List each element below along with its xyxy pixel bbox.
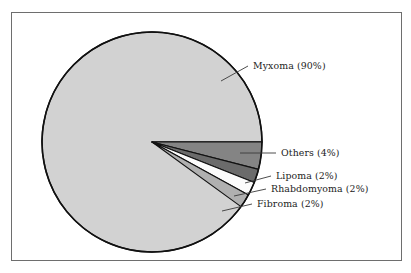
pie-label-others: Others (4%) <box>281 147 340 158</box>
pie-label-fibroma: Fibroma (2%) <box>257 198 323 209</box>
figure-canvas: Myxoma (90%) Others (4%) Lipoma (2%) Rha… <box>0 0 411 273</box>
pie-label-rhabdomyoma: Rhabdomyoma (2%) <box>271 183 368 194</box>
pie-label-myxoma: Myxoma (90%) <box>253 60 326 71</box>
pie-label-lipoma: Lipoma (2%) <box>276 170 338 181</box>
pie-chart <box>0 0 411 273</box>
